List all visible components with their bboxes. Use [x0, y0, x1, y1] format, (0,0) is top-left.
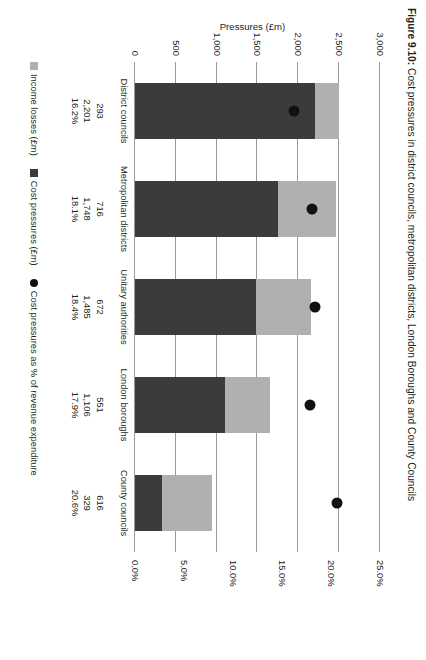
income-losses-value: 616 [94, 454, 107, 552]
y2-axis-tick-label: 5.0% [179, 560, 190, 581]
y2-axis-tick-label: 25.0% [375, 560, 386, 587]
category-label: County councils [106, 454, 130, 552]
y-axis-tick-label: 0 [130, 51, 141, 56]
legend-item-cost-pressures-pct: Cost pressures as % of revenue expenditu… [29, 279, 40, 476]
legend-item-cost-pressures: Cost pressures (£m) [29, 169, 40, 266]
income-losses-value: 293 [94, 62, 107, 160]
y-axis-tick-label: 500 [170, 40, 181, 56]
cost-pressures-value: 1,485 [81, 258, 94, 356]
pct-marker-dot [305, 400, 316, 411]
pct-value: 17.9% [69, 356, 82, 454]
chart-figure: Figure 9.10: Cost pressures in district … [0, 0, 426, 660]
legend-label-cost-pressures-pct: Cost pressures as % of revenue expenditu… [29, 291, 40, 476]
y2-axis-tick-label: 15.0% [277, 560, 288, 587]
category-column: County councils61632920.6% [69, 454, 131, 552]
figure-page: Figure 9.10: Cost pressures in district … [0, 0, 426, 660]
bar-segment-cost-pressures [135, 279, 256, 336]
y-axis-tick-label: 2,500 [334, 33, 345, 56]
cost-pressures-value: 1,748 [81, 160, 94, 258]
category-value-table: District councils2932,20116.2%Metropolit… [52, 62, 130, 552]
pct-value: 16.2% [69, 62, 82, 160]
bar-segment-cost-pressures [135, 475, 162, 532]
category-column: London boroughs5511,10617.9% [69, 356, 131, 454]
cost-pressures-value: 329 [81, 454, 94, 552]
y-axis-tick-label: 3,000 [375, 33, 386, 56]
figure-number: Figure 9.10: [406, 8, 417, 65]
category-label: Metropolitan districts [106, 160, 130, 258]
y2-axis-tick-label: 20.0% [326, 560, 337, 587]
bar-segment-income-losses [162, 475, 212, 532]
figure-title-text: Cost pressures in district councils, met… [406, 68, 417, 501]
pct-value: 20.6% [69, 454, 82, 552]
income-losses-swatch-icon [31, 62, 39, 70]
pct-value: 18.1% [69, 160, 82, 258]
category-label: District councils [106, 62, 130, 160]
figure-title: Figure 9.10: Cost pressures in district … [405, 8, 418, 648]
bar-segment-cost-pressures [135, 377, 225, 434]
bar-segment-income-losses [225, 377, 270, 434]
income-losses-value: 551 [94, 356, 107, 454]
category-label: Unitary authorities [106, 258, 130, 356]
legend-label-income-losses: Income losses (£m) [29, 74, 40, 156]
pct-marker-dot [310, 302, 321, 313]
category-label: London boroughs [106, 356, 130, 454]
bar-group [135, 181, 380, 238]
chart-legend: Income losses (£m) Cost pressures (£m) C… [29, 62, 40, 622]
legend-item-income-losses: Income losses (£m) [29, 62, 40, 156]
bar-group [135, 475, 380, 532]
bar-segment-cost-pressures [135, 181, 278, 238]
category-column: Unitary authorities6721,48518.4% [69, 258, 131, 356]
category-column: Metropolitan districts7161,74818.1% [69, 160, 131, 258]
bar-group [135, 377, 380, 434]
y-axis-title: Pressures (£m) [183, 21, 323, 32]
y-axis-tick-label: 2,000 [293, 33, 304, 56]
pct-marker-dot [307, 204, 318, 215]
cost-pressures-swatch-icon [31, 169, 39, 177]
pct-marker-dot [288, 106, 299, 117]
bar-group [135, 279, 380, 336]
plot-area: 3,0002,5002,0001,5001,000500025.0%20.0%1… [135, 62, 380, 552]
bar-segment-income-losses [256, 279, 311, 336]
bar-segment-income-losses [315, 83, 339, 140]
cost-pressures-value: 2,201 [81, 62, 94, 160]
pct-marker-dot [331, 498, 342, 509]
legend-label-cost-pressures: Cost pressures (£m) [29, 181, 40, 266]
income-losses-value: 672 [94, 258, 107, 356]
pct-value: 18.4% [69, 258, 82, 356]
y-axis-tick-label: 1,000 [211, 33, 222, 56]
y2-axis-tick-label: 0.0% [130, 560, 141, 581]
bar-group [135, 83, 380, 140]
category-column: District councils2932,20116.2% [69, 62, 131, 160]
y-axis-tick-label: 1,500 [252, 33, 263, 56]
income-losses-value: 716 [94, 160, 107, 258]
y2-axis-tick-label: 10.0% [228, 560, 239, 587]
cost-pressures-pct-dot-icon [31, 279, 39, 287]
cost-pressures-value: 1,106 [81, 356, 94, 454]
